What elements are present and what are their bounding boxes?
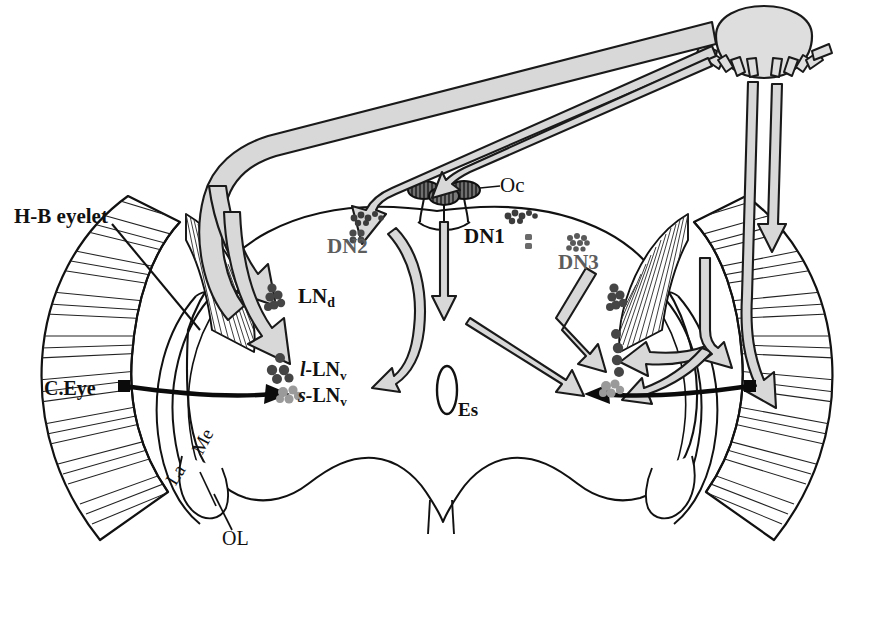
label-l-lnv-sub: v bbox=[340, 368, 347, 383]
label-lnd-main: LN bbox=[298, 284, 327, 308]
figure-root: H-B eyelet C.Eye Me La OL Oc DN1 DN2 DN3… bbox=[0, 0, 874, 620]
label-dn2: DN2 bbox=[327, 236, 368, 257]
label-ocelli: Oc bbox=[500, 175, 525, 196]
label-lnd-sub: d bbox=[327, 295, 335, 310]
label-l-lnv-main: LN bbox=[312, 358, 340, 380]
label-s-lnv-prefix: s- bbox=[298, 384, 312, 406]
label-optic-lobe: OL bbox=[222, 528, 249, 548]
label-hb-eyelet: H-B eyelet bbox=[14, 206, 108, 227]
label-lnd: LNd bbox=[298, 286, 335, 307]
label-dn1: DN1 bbox=[464, 226, 505, 247]
label-compound-eye: C.Eye bbox=[44, 378, 96, 398]
label-esophagus: Es bbox=[458, 400, 478, 419]
diagram-canvas bbox=[0, 0, 874, 620]
label-l-lnv-prefix: l- bbox=[300, 358, 312, 380]
label-dn3: DN3 bbox=[558, 252, 599, 273]
label-s-lnv-sub: v bbox=[340, 394, 347, 409]
label-s-lnv-main: LN bbox=[312, 384, 340, 406]
label-s-lnv: s-LNv bbox=[298, 385, 347, 405]
label-l-lnv: l-LNv bbox=[300, 359, 347, 379]
esophagus bbox=[437, 366, 457, 414]
